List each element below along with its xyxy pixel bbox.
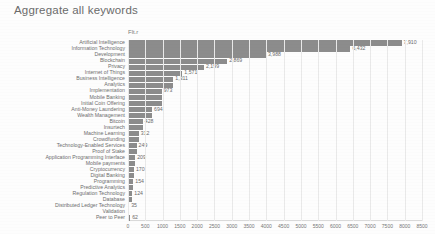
bar-row[interactable]: Database: [128, 197, 422, 203]
bar[interactable]: [128, 77, 173, 82]
bar-row[interactable]: Initial Coin Offering: [128, 101, 422, 107]
bar[interactable]: [128, 119, 143, 124]
x-tick-label: 500: [141, 223, 149, 229]
value-label: 1,311: [175, 75, 188, 82]
bar-row[interactable]: Wealth Management: [128, 113, 422, 119]
x-tick-label: 8500: [416, 223, 427, 229]
bar-row[interactable]: Development3,988: [128, 52, 422, 58]
gridline: [284, 40, 285, 221]
x-tick-label: 3500: [243, 223, 254, 229]
x-axis-ticks: 0500100015002000250030003500400045005000…: [128, 223, 422, 234]
chart-page: Aggregate all keywords Flt.r Artificial …: [0, 0, 435, 234]
value-label: 973: [164, 87, 173, 94]
chart-panel: Flt.r Artificial Intelligence7,910Inform…: [0, 18, 435, 234]
bar-row[interactable]: Predictive Analytics: [128, 185, 422, 191]
gridline: [214, 40, 215, 221]
bar-row[interactable]: Internet of Things1,571: [128, 71, 422, 77]
gridline: [145, 40, 146, 221]
bar-row[interactable]: Application Programming Interface209: [128, 155, 422, 161]
value-label: 62: [132, 214, 138, 221]
bar-row[interactable]: Bitcoin428: [128, 119, 422, 125]
bar-row[interactable]: Distributed Ledger Technology35: [128, 203, 422, 209]
x-tick-label: 5000: [295, 223, 306, 229]
x-tick-label: 5500: [313, 223, 324, 229]
bar[interactable]: [128, 149, 137, 154]
gridline: [180, 40, 181, 221]
bar[interactable]: [128, 131, 139, 136]
x-tick-label: 6000: [330, 223, 341, 229]
x-tick-label: 4500: [278, 223, 289, 229]
bar-row[interactable]: Machine Learning312: [128, 131, 422, 137]
value-label: 694: [154, 106, 163, 113]
bar-row[interactable]: Peer to Peer62: [128, 215, 422, 221]
bar-row[interactable]: Mobile payments: [128, 161, 422, 167]
page-title: Aggregate all keywords: [14, 4, 138, 16]
gridline: [249, 40, 250, 221]
bar-row[interactable]: Insurtech: [128, 125, 422, 131]
x-tick-label: 1000: [157, 223, 168, 229]
gridline: [128, 40, 129, 221]
bar[interactable]: [128, 161, 135, 166]
gridline: [318, 40, 319, 221]
gridline: [405, 40, 406, 221]
gridline: [387, 40, 388, 221]
bar-row[interactable]: Blockchain2,869: [128, 59, 422, 65]
bar-row[interactable]: Anti-Money Laundering694: [128, 107, 422, 113]
series-label: Flt.r: [128, 29, 138, 35]
bar-row[interactable]: Mobile Banking: [128, 95, 422, 101]
value-label: 35: [131, 202, 137, 209]
value-label: 3,988: [268, 51, 281, 58]
bar[interactable]: [128, 71, 182, 76]
bar-row[interactable]: Crowdfunding: [128, 137, 422, 143]
gridline: [163, 40, 164, 221]
plot-area: Artificial Intelligence7,910Information …: [128, 40, 422, 221]
bar-rows: Artificial Intelligence7,910Information …: [128, 40, 422, 221]
bar-row[interactable]: Regulation Technology124: [128, 191, 422, 197]
bar-row[interactable]: Cryptocurrency170: [128, 167, 422, 173]
gridline: [301, 40, 302, 221]
bar-row[interactable]: Privacy2,199: [128, 65, 422, 71]
bar[interactable]: [128, 46, 350, 51]
value-label: 170: [136, 166, 145, 173]
gridline: [266, 40, 267, 221]
x-tick-label: 7500: [382, 223, 393, 229]
bar[interactable]: [128, 137, 139, 142]
bar-row[interactable]: Validation: [128, 209, 422, 215]
value-label: 124: [134, 190, 143, 197]
value-label: 2,199: [206, 63, 219, 70]
gridline: [232, 40, 233, 221]
bar-row[interactable]: Business Intelligence1,311: [128, 77, 422, 83]
x-tick-label: 3000: [226, 223, 237, 229]
x-tick-label: 2500: [209, 223, 220, 229]
gridline: [353, 40, 354, 221]
x-tick-label: 0: [127, 223, 130, 229]
gridline: [197, 40, 198, 221]
gridline: [422, 40, 423, 221]
x-tick-label: 4000: [261, 223, 272, 229]
x-tick-label: 2000: [192, 223, 203, 229]
x-tick-label: 6500: [347, 223, 358, 229]
x-tick-label: 7000: [365, 223, 376, 229]
bar-row[interactable]: Programming154: [128, 179, 422, 185]
x-tick-label: 8000: [399, 223, 410, 229]
bar-row[interactable]: Proof of Stake: [128, 149, 422, 155]
bar-row[interactable]: Artificial Intelligence7,910: [128, 40, 422, 46]
value-label: 6,432: [352, 45, 365, 52]
gridline: [370, 40, 371, 221]
bar[interactable]: [128, 107, 152, 112]
bar[interactable]: [128, 155, 135, 160]
gridline: [336, 40, 337, 221]
bar[interactable]: [128, 143, 137, 148]
category-label: Peer to Peer: [96, 214, 125, 221]
bar-row[interactable]: Implementation973: [128, 89, 422, 95]
value-label: 154: [135, 178, 144, 185]
x-tick-label: 1500: [174, 223, 185, 229]
bar-row[interactable]: Technology-Enabled Services249: [128, 143, 422, 149]
bar-row[interactable]: Digital Banking: [128, 173, 422, 179]
